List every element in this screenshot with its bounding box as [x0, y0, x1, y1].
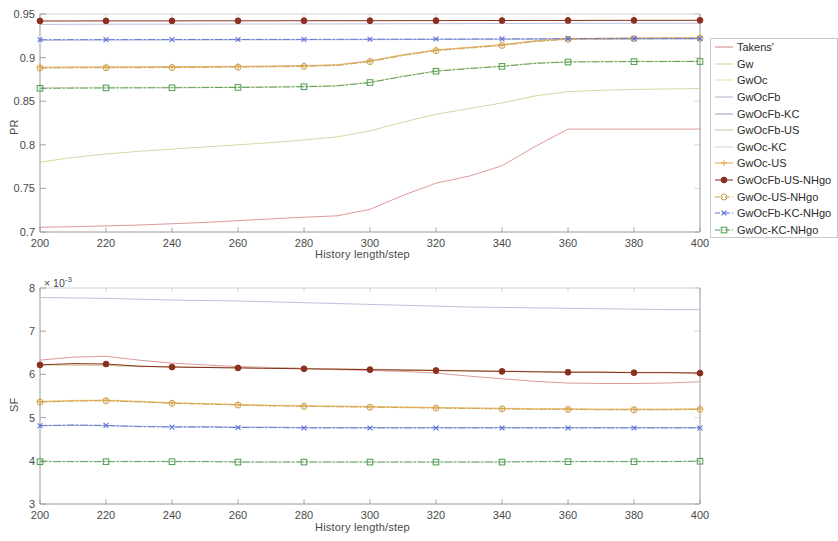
sf-plot-svg: 200220240260280300320340360380400345678: [0, 272, 712, 541]
series-gwocfb-us-nhgo: [37, 361, 703, 376]
pr-plot-svg: 2002202402602803003203403603804000.70.75…: [0, 0, 712, 268]
series-line: [40, 129, 700, 227]
legend-item-label: GwOcFb-KC-NHgo: [737, 207, 831, 219]
series-gwoc-kc: [40, 61, 700, 88]
legend-item-label: GwOc-US-NHgo: [737, 191, 818, 203]
x-tick-label: 260: [229, 509, 247, 521]
series-marker: [169, 18, 175, 24]
series-line: [40, 62, 700, 89]
sf-chart-panel: 200220240260280300320340360380400345678 …: [0, 272, 712, 541]
y-tick-label: 6: [29, 368, 35, 380]
series-marker: [697, 370, 703, 376]
series-line: [40, 298, 700, 310]
series-marker: [565, 369, 571, 375]
x-tick-label: 380: [625, 509, 643, 521]
legend-item[interactable]: Gw: [711, 56, 837, 73]
legend-item[interactable]: GwOc-KC-NHgo: [711, 222, 837, 238]
series-marker: [631, 17, 637, 23]
legend-line-sample: [714, 90, 734, 104]
legend-item[interactable]: GwOcFb-US: [711, 122, 837, 139]
legend-line-sample: [714, 140, 734, 154]
legend-item-label: GwOc-KC: [737, 141, 787, 153]
y-tick-label: 4: [29, 455, 35, 467]
series-marker: [433, 18, 439, 24]
legend-item[interactable]: GwOc-KC: [711, 139, 837, 156]
legend-item[interactable]: GwOcFb: [711, 89, 837, 106]
legend-item[interactable]: GwOcFb-US-NHgo: [711, 172, 837, 189]
axes-frame: [40, 288, 700, 504]
x-tick-label: 280: [295, 237, 313, 249]
y-tick-label: 5: [29, 412, 35, 424]
sf-yaxis-label: SF: [8, 398, 20, 412]
series-marker: [433, 368, 439, 374]
legend-item-label: GwOc-US: [737, 157, 787, 169]
series-line: [40, 89, 700, 163]
legend-item[interactable]: GwOcFb-KC: [711, 105, 837, 122]
x-tick-label: 400: [691, 237, 709, 249]
legend-item[interactable]: Takens': [711, 39, 837, 56]
series-marker: [367, 18, 373, 24]
x-tick-label: 280: [295, 509, 313, 521]
x-tick-label: 220: [97, 237, 115, 249]
legend-line-sample: [714, 40, 734, 54]
series-marker: [499, 368, 505, 374]
series-gwoc-us-nhgo: [37, 35, 703, 71]
series-line: [40, 61, 700, 88]
series-marker: [103, 18, 109, 24]
legend-item-label: Takens': [737, 41, 774, 53]
x-tick-label: 360: [559, 509, 577, 521]
sf-exponent-power: -3: [65, 275, 72, 284]
x-tick-label: 320: [427, 509, 445, 521]
x-tick-label: 340: [493, 509, 511, 521]
series-marker: [499, 18, 505, 24]
series-marker: [697, 17, 703, 23]
y-tick-label: 7: [29, 325, 35, 337]
x-tick-label: 200: [31, 509, 49, 521]
y-tick-label: 0.95: [14, 8, 35, 20]
legend-marker: [721, 177, 727, 183]
legend-item[interactable]: GwOcFb-KC-NHgo: [711, 205, 837, 222]
x-tick-label: 400: [691, 509, 709, 521]
series-takens-: [40, 129, 700, 227]
sf-exponent-mantissa: × 10: [44, 277, 65, 289]
legend-item-label: GwOc: [737, 74, 768, 86]
pr-xaxis-label: History length/step: [315, 248, 410, 260]
legend-line-sample: [714, 173, 734, 187]
y-tick-label: 8: [29, 282, 35, 294]
y-tick-label: 0.9: [20, 52, 35, 64]
legend-line-sample: [714, 206, 734, 220]
y-tick-label: 0.75: [14, 182, 35, 194]
legend-line-sample: [714, 190, 734, 204]
legend-line-sample: [714, 223, 734, 237]
x-tick-label: 260: [229, 237, 247, 249]
x-tick-label: 240: [163, 509, 181, 521]
x-tick-label: 380: [625, 237, 643, 249]
legend-item[interactable]: GwOc-US-NHgo: [711, 188, 837, 205]
legend-item-label: GwOcFb-US: [737, 124, 799, 136]
legend: Takens'GwGwOcGwOcFbGwOcFb-KCGwOcFb-USGwO…: [710, 38, 838, 238]
legend-line-sample: [714, 57, 734, 71]
series-marker: [367, 367, 373, 373]
legend-item-label: GwOcFb-US-NHgo: [737, 174, 831, 186]
x-tick-label: 200: [31, 237, 49, 249]
axis-ticks: 2002202402602803003203403603804000.70.75…: [14, 8, 710, 249]
series-marker: [631, 370, 637, 376]
x-tick-label: 300: [361, 509, 379, 521]
legend-line-sample: [714, 156, 734, 170]
legend-item[interactable]: GwOc: [711, 72, 837, 89]
legend-line-sample: [714, 73, 734, 87]
legend-item-label: GwOc-KC-NHgo: [737, 224, 818, 236]
x-tick-label: 220: [97, 509, 115, 521]
series-marker: [169, 364, 175, 370]
series-gwocfb: [40, 298, 700, 310]
series-marker: [103, 361, 109, 367]
sf-yaxis-exponent: × 10-3: [44, 275, 72, 289]
x-tick-label: 340: [493, 237, 511, 249]
legend-item-label: GwOcFb-KC: [737, 108, 799, 120]
pr-yaxis-label: PR: [8, 119, 20, 135]
legend-marker: [721, 160, 727, 166]
legend-item[interactable]: GwOc-US: [711, 155, 837, 172]
series-marker: [301, 18, 307, 24]
x-tick-label: 240: [163, 237, 181, 249]
